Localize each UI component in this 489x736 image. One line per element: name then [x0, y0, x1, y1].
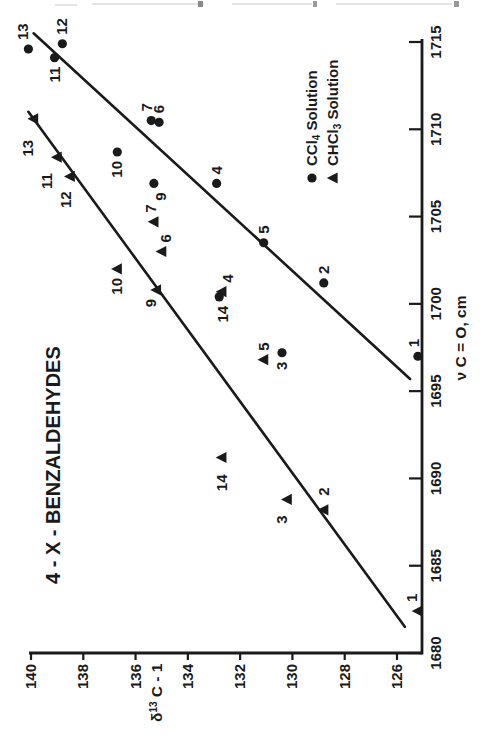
point-label-ccl4-4: 4 [208, 165, 225, 174]
point-label-chcl3-1: 1 [403, 594, 420, 602]
scatter-chart: 1680168516901695170017051710171512612813… [0, 0, 489, 736]
data-point-ccl4-6 [155, 118, 164, 127]
chcl3-series-group: 123456791011121314 [19, 113, 423, 616]
point-label-ccl4-7: 7 [138, 103, 155, 111]
point-label-ccl4-1: 1 [405, 339, 422, 347]
data-point-ccl4-10 [113, 147, 122, 156]
y-tick-label-138: 138 [74, 664, 91, 689]
y-axis-label: δ13 C - 1 [148, 663, 165, 722]
data-point-chcl3-12 [64, 171, 75, 182]
y-tick-label-132: 132 [231, 664, 248, 689]
scanned-figure-page: 1680168516901695170017051710171512612813… [0, 0, 489, 736]
point-label-ccl4-11: 11 [46, 67, 63, 83]
data-point-ccl4-4 [212, 179, 221, 188]
x-tick-label-1695: 1695 [427, 374, 444, 407]
data-point-ccl4-1 [413, 352, 422, 361]
data-point-ccl4-12 [58, 39, 67, 48]
y-tick-label-136: 136 [127, 664, 144, 689]
y-tick-label-126: 126 [388, 664, 405, 689]
data-point-chcl3-5 [257, 354, 268, 365]
point-label-ccl4-12: 12 [53, 18, 70, 35]
point-label-chcl3-12: 12 [57, 191, 74, 208]
data-point-ccl4-5 [259, 238, 268, 247]
rotated-figure-container: 1680168516901695170017051710171512612813… [0, 0, 489, 736]
legend-triangle-icon [327, 172, 338, 183]
point-label-chcl3-10: 10 [108, 278, 125, 295]
legend-label-chcl3: CHCl3 Solution [324, 60, 343, 166]
point-label-chcl3-4: 4 [219, 274, 236, 283]
point-label-ccl4-5: 5 [255, 225, 272, 233]
point-label-chcl3-3: 3 [273, 515, 290, 523]
x-tick-label-1700: 1700 [427, 287, 444, 320]
x-tick-label-1710: 1710 [427, 113, 444, 146]
x-tick-label-1705: 1705 [427, 200, 444, 233]
x-tick-label-1690: 1690 [427, 462, 444, 495]
legend-label-ccl4: CCl4 Solution [303, 70, 322, 166]
point-label-chcl3-14: 14 [213, 474, 230, 491]
point-label-chcl3-11: 11 [38, 173, 55, 189]
fit-line-ccl4 [34, 33, 410, 379]
y-tick-label-140: 140 [22, 664, 39, 689]
point-label-chcl3-13: 13 [19, 140, 36, 157]
legend-group: CCl4 SolutionCHCl3 Solution [303, 60, 343, 184]
point-label-chcl3-9: 9 [142, 299, 159, 307]
point-label-ccl4-14: 14 [214, 305, 231, 322]
data-point-chcl3-6 [156, 246, 167, 257]
point-label-ccl4-3: 3 [273, 362, 290, 370]
point-label-ccl4-9: 9 [152, 192, 169, 200]
fit-lines-group [28, 33, 410, 627]
point-label-chcl3-5: 5 [255, 342, 272, 350]
point-label-ccl4-2: 2 [315, 266, 332, 274]
data-point-chcl3-7 [148, 216, 159, 227]
data-point-ccl4-3 [277, 348, 286, 357]
data-point-chcl3-3 [281, 494, 292, 505]
x-tick-label-1680: 1680 [427, 636, 444, 669]
point-label-ccl4-13: 13 [14, 23, 31, 40]
data-point-chcl3-11 [51, 152, 62, 163]
point-label-ccl4-10: 10 [108, 161, 125, 178]
y-tick-label-128: 128 [336, 664, 353, 689]
data-point-ccl4-2 [319, 278, 328, 287]
y-tick-label-130: 130 [283, 664, 300, 689]
legend-circle-icon [307, 173, 316, 182]
data-point-ccl4-11 [50, 53, 59, 62]
data-point-chcl3-14 [216, 452, 227, 463]
x-axis-label: ν C = O, cm [452, 296, 469, 381]
data-point-chcl3-10 [111, 263, 122, 274]
fit-line-chcl3 [28, 112, 404, 627]
data-point-chcl3-1 [412, 606, 423, 617]
data-point-ccl4-7 [147, 116, 156, 125]
data-point-ccl4-9 [149, 179, 158, 188]
x-tick-label-1685: 1685 [427, 549, 444, 582]
x-axis-group: 16801685169016951700170517101715 [409, 25, 444, 669]
point-label-chcl3-7: 7 [142, 204, 159, 212]
point-label-chcl3-6: 6 [157, 234, 174, 242]
y-axis-group: 126128130132134136138140 [22, 653, 422, 689]
chart-title: 4 - X - BENZALDEHYDES [42, 346, 64, 584]
x-tick-label-1715: 1715 [427, 25, 444, 58]
data-point-ccl4-13 [24, 44, 33, 53]
y-tick-label-134: 134 [179, 663, 196, 689]
point-label-chcl3-2: 2 [315, 488, 332, 496]
